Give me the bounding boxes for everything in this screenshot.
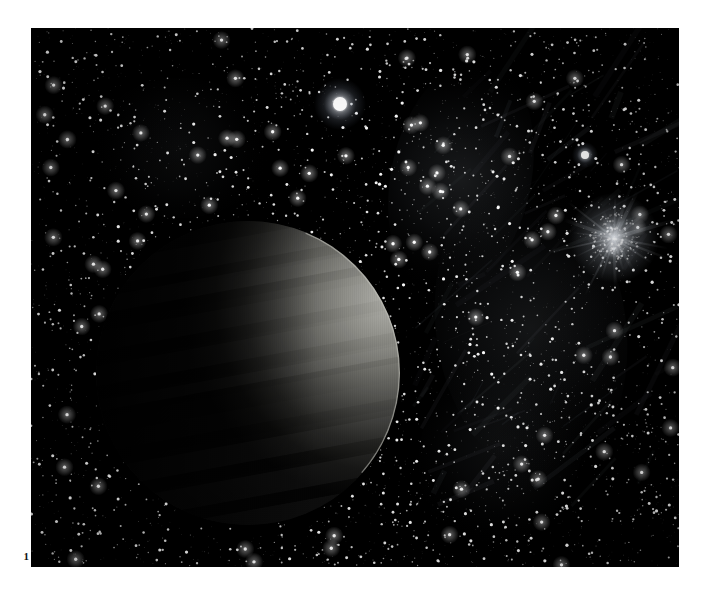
figure-root: 1 [0, 0, 709, 599]
astronomical-plate [31, 28, 679, 567]
figure-number-label: 1 [17, 550, 29, 562]
sky-image [31, 28, 679, 567]
